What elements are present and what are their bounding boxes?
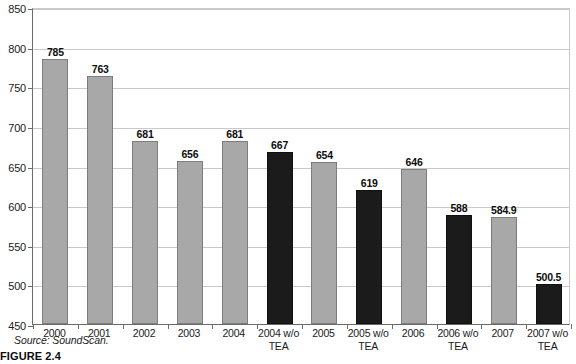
x-axis-label: 2004 w/o TEA — [256, 327, 301, 352]
y-tick-mark — [28, 128, 33, 129]
bar-2005: 654 — [311, 162, 337, 324]
y-gridline — [33, 286, 569, 287]
bar-2007-w-o-tea: 500.5 — [536, 284, 562, 324]
x-axis-label-row: 200020012002200320042004 w/o TEA20052005… — [32, 327, 570, 357]
y-tick-mark — [28, 286, 33, 287]
y-tick-label: 700 — [8, 122, 26, 134]
bar-2002: 681 — [132, 141, 158, 324]
figure-container: 4505005506006507007508008507857636816566… — [0, 0, 576, 364]
y-tick-mark — [28, 88, 33, 89]
y-gridline — [33, 247, 569, 248]
bar-value-label: 681 — [226, 128, 243, 140]
y-tick-label: 650 — [8, 162, 26, 174]
bar-2006: 646 — [401, 169, 427, 324]
y-tick-label: 500 — [8, 280, 26, 292]
bar-value-label: 584.9 — [491, 204, 516, 216]
x-axis-label: 2007 — [480, 327, 525, 340]
bar-value-label: 656 — [181, 148, 198, 160]
bar-2000: 785 — [42, 59, 68, 324]
y-gridline — [33, 168, 569, 169]
bar-2004-w-o-tea: 667 — [267, 152, 293, 324]
bar-value-label: 667 — [271, 139, 288, 151]
x-axis-label: 2002 — [122, 327, 167, 340]
y-gridline — [33, 49, 569, 50]
y-tick-label: 750 — [8, 82, 26, 94]
x-tick-mark — [571, 324, 572, 329]
y-tick-mark — [28, 247, 33, 248]
bar-value-label: 619 — [361, 177, 378, 189]
y-tick-label: 850 — [8, 3, 26, 15]
bar-value-label: 785 — [47, 46, 64, 58]
x-axis-label: 2006 w/o TEA — [436, 327, 481, 352]
x-axis-label: 2005 — [301, 327, 346, 340]
bar-value-label: 588 — [450, 202, 467, 214]
bar-value-label: 646 — [406, 156, 423, 168]
y-tick-mark — [28, 168, 33, 169]
y-gridline — [33, 207, 569, 208]
x-axis-label: 2006 — [391, 327, 436, 340]
y-tick-mark — [28, 207, 33, 208]
y-gridline — [33, 9, 569, 10]
y-tick-label: 450 — [8, 320, 26, 332]
bar-2007: 584.9 — [491, 217, 517, 324]
y-tick-label: 600 — [8, 201, 26, 213]
y-tick-label: 800 — [8, 43, 26, 55]
x-axis-label: 2004 — [211, 327, 256, 340]
figure-caption: FIGURE 2.4 — [0, 350, 61, 362]
bar-2003: 656 — [177, 161, 203, 324]
chart-plot-area: 4505005506006507007508008507857636816566… — [32, 8, 570, 325]
bar-2004: 681 — [222, 141, 248, 324]
x-axis-label: 2003 — [167, 327, 212, 340]
y-gridline — [33, 128, 569, 129]
bar-2005-w-o-tea: 619 — [356, 190, 382, 324]
bar-2001: 763 — [87, 76, 113, 324]
bar-2006-w-o-tea: 588 — [446, 215, 472, 324]
bar-value-label: 763 — [92, 63, 109, 75]
x-axis-label: 2007 w/o TEA — [525, 327, 570, 352]
bar-value-label: 681 — [137, 128, 154, 140]
y-tick-mark — [28, 49, 33, 50]
x-axis-label: 2005 w/o TEA — [346, 327, 391, 352]
y-gridline — [33, 88, 569, 89]
bar-value-label: 654 — [316, 149, 333, 161]
bar-value-label: 500.5 — [536, 271, 561, 283]
source-note: Source: SoundScan. — [14, 334, 109, 346]
y-tick-mark — [28, 9, 33, 10]
y-tick-label: 550 — [8, 241, 26, 253]
